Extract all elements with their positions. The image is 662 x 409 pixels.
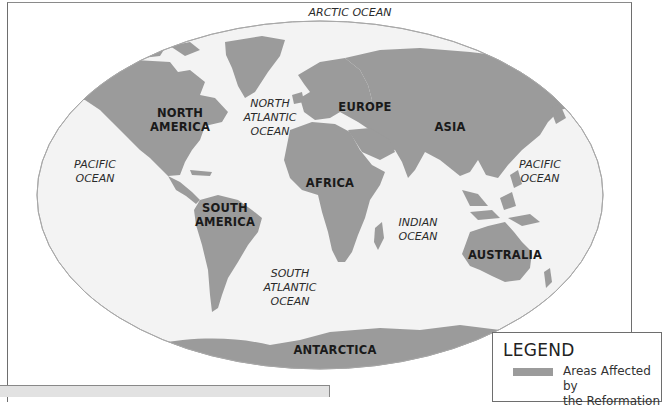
label-europe: EUROPE [325,100,405,114]
label-antarctica: ANTARCTICA [280,343,390,357]
label-asia: ASIA [420,120,480,134]
legend-box: LEGEND Areas Affected by the Reformation [492,332,662,402]
label-north-atlantic-ocean: NORTH ATLANTIC OCEAN [225,97,315,139]
label-south-america: SOUTH AMERICA [180,201,270,229]
label-africa: AFRICA [290,176,370,190]
label-south-atlantic-ocean: SOUTH ATLANTIC OCEAN [245,267,335,309]
label-pacific-ocean-east: PACIFIC OCEAN [500,158,580,186]
bottom-panel-edge [0,385,330,397]
label-arctic-ocean: ARCTIC OCEAN [290,6,410,20]
legend-label-reformation: Areas Affected by the Reformation [563,364,661,409]
legend-title: LEGEND [503,340,575,360]
label-indian-ocean: INDIAN OCEAN [378,216,458,244]
label-pacific-ocean-west: PACIFIC OCEAN [55,158,135,186]
legend-swatch-reformation [513,368,553,376]
label-australia: AUSTRALIA [460,248,550,262]
label-north-america: NORTH AMERICA [135,106,225,134]
